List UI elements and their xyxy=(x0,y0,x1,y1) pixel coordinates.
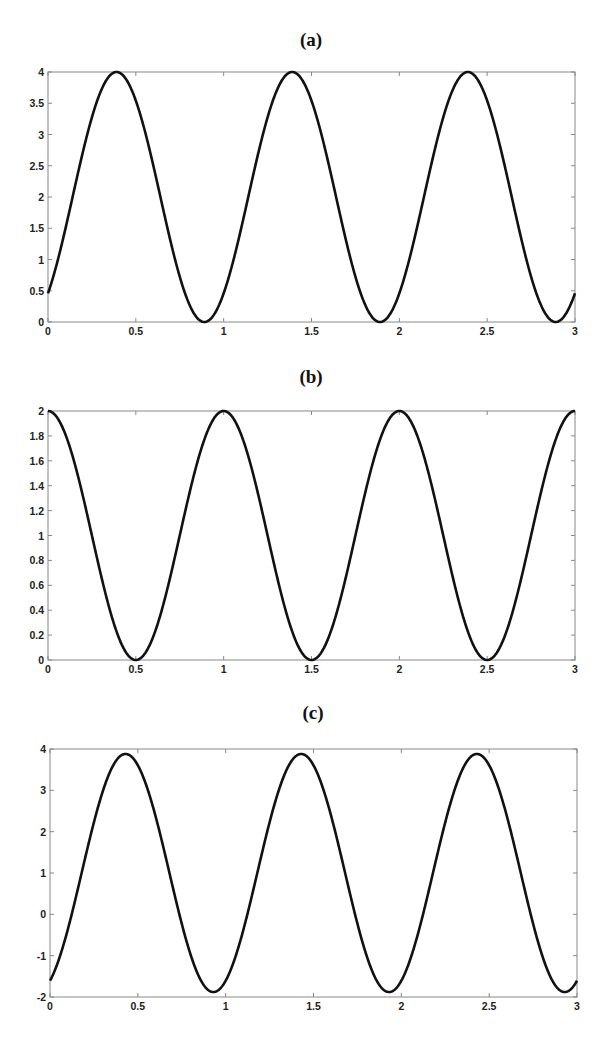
x-tick-label: 1.5 xyxy=(304,325,319,337)
y-tick-label: 4 xyxy=(38,66,44,78)
x-tick-label: 3 xyxy=(572,325,578,337)
x-tick-label: 0 xyxy=(47,1000,53,1012)
chart-canvas: 00.511.522.5300.511.522.533.54 00.511.52… xyxy=(0,0,615,1047)
y-tick-label: 2 xyxy=(40,826,46,838)
panel-a-plot: 00.511.522.5300.511.522.533.54 xyxy=(29,66,578,337)
x-tick-label: 2.5 xyxy=(480,325,495,337)
y-tick-label: 1.5 xyxy=(29,222,44,234)
x-tick-label: 1 xyxy=(221,325,227,337)
plot-frame-b xyxy=(48,411,575,660)
y-tick-label: 0 xyxy=(38,316,44,328)
x-tick-label: 1 xyxy=(221,663,227,675)
y-tick-label: 0 xyxy=(38,654,44,666)
y-tick-label: 1.2 xyxy=(29,505,44,517)
x-tick-label: 2 xyxy=(396,663,402,675)
y-tick-label: 3 xyxy=(38,129,44,141)
y-tick-label: 1 xyxy=(38,530,44,542)
y-tick-label: 2 xyxy=(38,191,44,203)
y-tick-label: 4 xyxy=(40,743,46,755)
y-tick-label: 0.2 xyxy=(29,629,44,641)
y-tick-label: 1.6 xyxy=(29,455,44,467)
x-tick-label: 1.5 xyxy=(304,663,319,675)
x-tick-label: 2.5 xyxy=(480,663,495,675)
y-tick-label: 1 xyxy=(40,867,46,879)
x-tick-label: 2 xyxy=(398,1000,404,1012)
y-tick-label: 0.5 xyxy=(29,285,44,297)
y-tick-label: -1 xyxy=(37,950,46,962)
x-tick-label: 0.5 xyxy=(129,325,144,337)
x-tick-label: 2.5 xyxy=(482,1000,497,1012)
x-tick-label: 0.5 xyxy=(129,663,144,675)
data-line-a xyxy=(48,72,575,322)
y-tick-label: 0.4 xyxy=(29,604,44,616)
y-tick-label: 2 xyxy=(38,405,44,417)
x-tick-label: 3 xyxy=(574,1000,580,1012)
y-tick-label: 0 xyxy=(40,908,46,920)
x-tick-label: 1.5 xyxy=(306,1000,321,1012)
y-tick-label: 0.6 xyxy=(29,579,44,591)
panel-b-plot: 00.511.522.5300.20.40.60.811.21.41.61.82 xyxy=(29,405,578,675)
y-tick-label: 2.5 xyxy=(29,160,44,172)
y-tick-label: 3.5 xyxy=(29,97,44,109)
x-tick-label: 2 xyxy=(396,325,402,337)
y-tick-label: -2 xyxy=(37,991,46,1003)
y-tick-label: 1 xyxy=(38,254,44,266)
data-line-c xyxy=(50,754,577,992)
y-tick-label: 3 xyxy=(40,784,46,796)
x-tick-label: 1 xyxy=(223,1000,229,1012)
y-tick-label: 1.8 xyxy=(29,430,44,442)
data-line-b xyxy=(48,411,575,660)
x-tick-label: 0.5 xyxy=(131,1000,146,1012)
plot-frame-a xyxy=(48,72,575,322)
y-tick-label: 0.8 xyxy=(29,554,44,566)
x-tick-label: 3 xyxy=(572,663,578,675)
panel-c-plot: 00.511.522.53-2-101234 xyxy=(37,743,580,1012)
x-tick-label: 0 xyxy=(45,663,51,675)
x-tick-label: 0 xyxy=(45,325,51,337)
y-tick-label: 1.4 xyxy=(29,480,44,492)
